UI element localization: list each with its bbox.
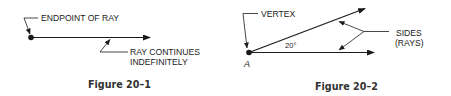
figure-20-1: ENDPOINT OF RAY RAY CONTINUES INDEFINITE… (24, 13, 200, 90)
ray-continues-label-line1: RAY CONTINUES (130, 47, 200, 57)
ray (28, 35, 150, 41)
sides-label-line2: (RAYS) (395, 38, 424, 48)
ray-continues-label-line2: INDEFINITELY (130, 57, 188, 67)
sides-leaders (339, 22, 389, 51)
ray-angle-diagram: ENDPOINT OF RAY RAY CONTINUES INDEFINITE… (0, 0, 451, 96)
figure-caption: Figure 20–1 (88, 79, 151, 90)
vertex-leader (243, 14, 258, 49)
vertex-label: VERTEX (261, 9, 295, 19)
angle-measure-label: 20° (285, 41, 296, 50)
figure-20-2: VERTEX SIDES (RAYS) 20° A Figure 20–2 (243, 9, 424, 93)
endpoint-dot (28, 35, 34, 41)
figure-caption: Figure 20–2 (315, 81, 378, 92)
ray-continues-leader (100, 40, 128, 53)
sides-label-line1: SIDES (396, 28, 422, 38)
endpoint-label: ENDPOINT OF RAY (41, 13, 119, 23)
vertex-dot (246, 50, 252, 56)
point-a-label: A (243, 59, 250, 69)
endpoint-leader (24, 18, 38, 34)
